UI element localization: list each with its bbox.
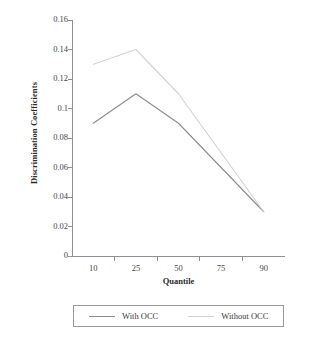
x-tick-label: 75 xyxy=(206,264,236,273)
x-tick-label: 50 xyxy=(164,264,194,273)
chart-container: Discrimination Coefficients 00.020.040.0… xyxy=(0,0,317,342)
legend-entry[interactable]: With OCC xyxy=(89,305,158,327)
x-axis-title: Quantile xyxy=(72,276,285,286)
legend-label: Without OCC xyxy=(221,311,268,321)
legend-line-swatch xyxy=(188,316,214,317)
x-tick-label: 90 xyxy=(249,264,279,273)
x-tick-label: 25 xyxy=(121,264,151,273)
legend-entry[interactable]: Without OCC xyxy=(188,305,268,327)
legend-line-swatch xyxy=(89,316,115,317)
legend: With OCCWithout OCC xyxy=(73,305,284,327)
x-tick-label: 10 xyxy=(78,264,108,273)
legend-label: With OCC xyxy=(122,311,158,321)
x-tick-labels: 1025507590 xyxy=(0,0,317,342)
